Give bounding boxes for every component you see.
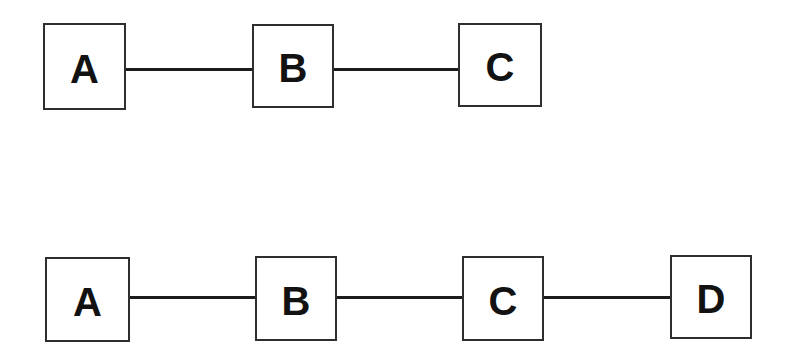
edge-bottom-a-b (130, 296, 255, 299)
edge-bottom-c-d (544, 296, 670, 299)
node-bottom-a-label: A (73, 282, 102, 322)
edge-top-a-b (126, 68, 252, 71)
node-bottom-b-label: B (282, 281, 311, 321)
node-bottom-d-label: D (697, 279, 726, 319)
node-bottom-c-label: C (489, 281, 518, 321)
edge-top-b-c (334, 68, 458, 71)
node-bottom-c: C (462, 256, 544, 341)
node-top-b: B (252, 24, 334, 108)
node-top-c: C (458, 23, 542, 107)
node-top-b-label: B (279, 48, 308, 88)
node-top-c-label: C (486, 47, 515, 87)
edge-bottom-b-c (337, 296, 462, 299)
node-bottom-b: B (255, 256, 337, 341)
diagram-canvas: A B C A B C D (0, 0, 797, 354)
node-bottom-a: A (45, 257, 130, 342)
node-top-a: A (43, 23, 126, 110)
node-bottom-d: D (670, 255, 752, 339)
node-top-a-label: A (70, 49, 99, 89)
